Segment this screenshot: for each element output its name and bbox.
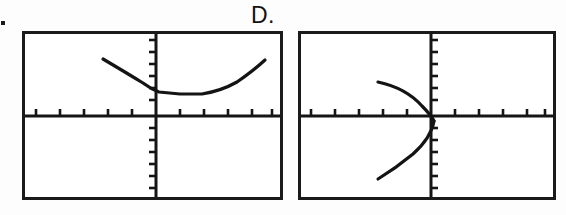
right-graph-axes	[301, 34, 553, 197]
left-graph-plot	[25, 34, 280, 197]
left-graph-panel	[22, 31, 283, 200]
answer-choice-label-d: D.	[243, 1, 283, 29]
screenshot-canvas: D.	[0, 0, 566, 215]
lead-marker-dot	[1, 21, 5, 25]
right-graph-plot	[301, 34, 553, 197]
right-graph-lower-branch	[378, 121, 434, 179]
left-graph-axes	[25, 34, 280, 197]
right-graph-panel	[298, 31, 556, 200]
left-graph-parabola-curve	[103, 59, 265, 94]
